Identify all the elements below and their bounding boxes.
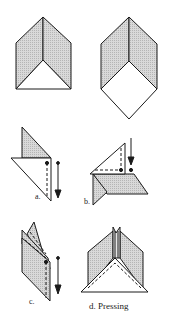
figure-open-seam-diamond <box>101 17 157 119</box>
arrow-down-icon <box>55 285 61 294</box>
label-a: a. <box>35 192 41 201</box>
arrow-down-icon <box>128 157 134 165</box>
label-d-pressing: d. Pressing <box>89 301 129 311</box>
center-seam-allowance <box>113 227 120 258</box>
white-flap <box>11 158 51 201</box>
figure-c <box>22 222 61 301</box>
figure-b <box>90 138 148 205</box>
arrow-start-dot <box>57 257 60 260</box>
pressing-diagram: a. b. c. d. Pressing <box>0 0 175 328</box>
pin-dot-inner <box>119 168 122 171</box>
label-c: c. <box>29 297 35 306</box>
arrow-down-icon <box>55 190 61 198</box>
shaded-flap <box>22 127 51 158</box>
figure-a <box>11 127 61 201</box>
label-b: b. <box>84 197 90 206</box>
pin-dot <box>45 161 48 164</box>
figure-d <box>81 227 148 292</box>
pin-dot-outer <box>129 168 132 171</box>
pin-dot <box>44 260 47 263</box>
figure-open-seam-triangle <box>16 17 71 89</box>
arrow-start-dot <box>57 162 60 165</box>
